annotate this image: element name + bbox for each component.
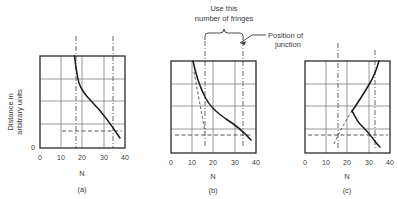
annotation-use-this-fringes: Use this number of fringes bbox=[195, 4, 254, 40]
x-axis-label: N bbox=[79, 169, 84, 178]
y-origin-label: 0 bbox=[31, 143, 35, 152]
curve-fringe-count bbox=[193, 61, 251, 140]
plot-frame bbox=[305, 61, 390, 153]
curve-asymptote bbox=[194, 72, 205, 132]
y-axis-label: Distance in arbitrary units bbox=[6, 89, 24, 135]
panel-c: 0 10 20 30 40 N (c) bbox=[303, 43, 394, 195]
x-axis-label: N bbox=[210, 172, 215, 181]
grid bbox=[40, 56, 125, 148]
annotation-fringes-line2: number of fringes bbox=[195, 14, 254, 23]
panel-a: 0 10 20 30 40 N (a) bbox=[38, 36, 129, 194]
x-tick-10: 10 bbox=[188, 159, 196, 166]
x-axis-label: N bbox=[344, 172, 349, 181]
figure-root: Distance in arbitrary units 0 Use this n… bbox=[0, 0, 398, 199]
annotation-junction-line2: junction bbox=[274, 40, 301, 49]
x-tick-20: 20 bbox=[209, 159, 217, 166]
x-tick-0: 0 bbox=[38, 154, 42, 161]
annotation-junction-line1: Position of bbox=[268, 31, 304, 40]
y-axis-label-line1: Distance in bbox=[6, 93, 15, 130]
x-tick-40: 40 bbox=[386, 159, 394, 166]
y-axis-label-line2: arbitrary units bbox=[15, 89, 24, 135]
leader-line bbox=[240, 35, 266, 43]
x-tick-0: 0 bbox=[169, 159, 173, 166]
grid bbox=[305, 61, 390, 153]
x-tick-20: 20 bbox=[78, 154, 86, 161]
x-tick-20: 20 bbox=[343, 159, 351, 166]
plot-frame bbox=[40, 56, 125, 148]
x-tick-10: 10 bbox=[57, 154, 65, 161]
panel-caption-b: (b) bbox=[208, 186, 218, 195]
x-tick-10: 10 bbox=[322, 159, 330, 166]
annotation-fringes-line1: Use this bbox=[210, 4, 237, 13]
x-tick-40: 40 bbox=[252, 159, 260, 166]
x-tick-30: 30 bbox=[231, 159, 239, 166]
x-tick-30: 30 bbox=[100, 154, 108, 161]
panel-caption-c: (c) bbox=[343, 186, 352, 195]
x-tick-labels: 0 10 20 30 40 bbox=[169, 159, 260, 166]
x-tick-labels: 0 10 20 30 40 bbox=[303, 159, 394, 166]
brace-icon bbox=[205, 29, 243, 40]
x-tick-0: 0 bbox=[303, 159, 307, 166]
x-tick-40: 40 bbox=[121, 154, 129, 161]
panel-caption-a: (a) bbox=[77, 185, 87, 194]
annotation-position-of-junction: Position of junction bbox=[240, 31, 304, 49]
curve-asymptote bbox=[334, 111, 352, 144]
x-tick-labels: 0 10 20 30 40 bbox=[38, 154, 129, 161]
x-tick-30: 30 bbox=[365, 159, 373, 166]
panel-b: 0 10 20 30 40 N (b) bbox=[169, 41, 260, 195]
